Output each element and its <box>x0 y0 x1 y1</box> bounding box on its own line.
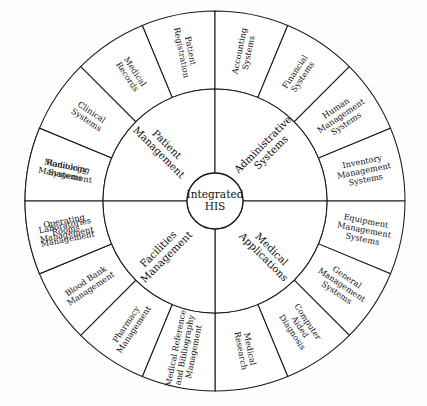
hub-label-line: HIS <box>205 200 226 212</box>
his-wheel-diagram: IntegratedHIS PatientRegistrationMedical… <box>0 0 427 406</box>
radial-wheel-svg: IntegratedHIS PatientRegistrationMedical… <box>0 0 427 406</box>
hub-group: IntegratedHIS <box>186 173 243 229</box>
hub-label-line: Integrated <box>186 188 243 200</box>
